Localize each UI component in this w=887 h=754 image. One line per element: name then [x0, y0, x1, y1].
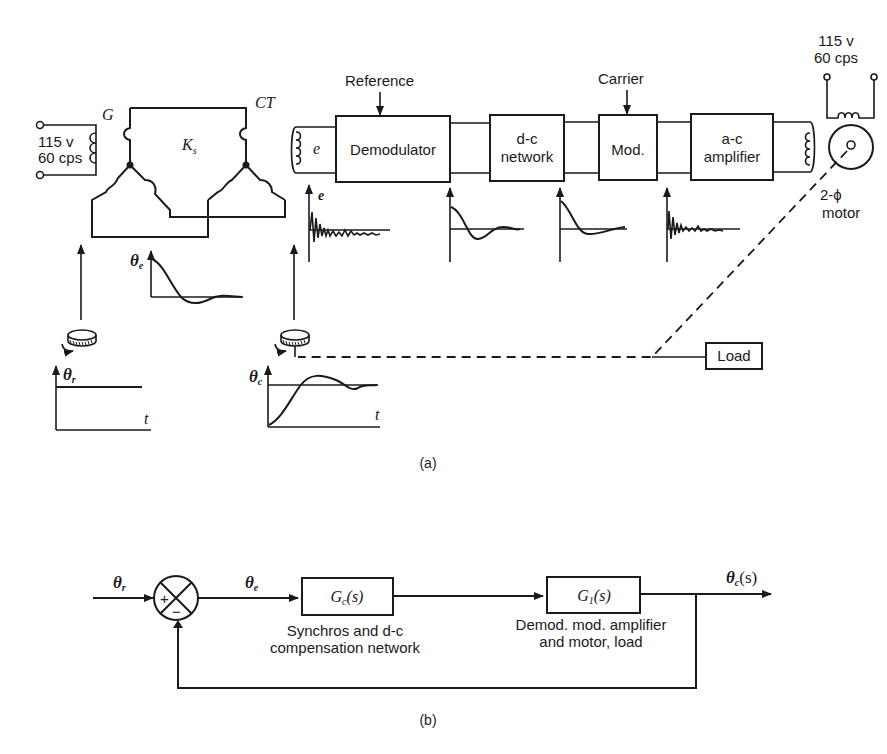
- svg-text:G1(s): G1(s): [577, 587, 610, 606]
- svg-text:compensation network: compensation network: [270, 639, 421, 656]
- input-knob[interactable]: [62, 245, 96, 351]
- block-g1-description: Demod. mod. amplifier: [516, 616, 667, 633]
- waveform-e: e: [309, 185, 390, 262]
- minus-sign: −: [172, 603, 181, 620]
- motor-label: motor: [822, 204, 860, 221]
- terminal-icon: [871, 74, 877, 80]
- caption-a: (a): [419, 455, 436, 471]
- caption-b: (b): [419, 712, 436, 728]
- error-ac-waveform: [310, 212, 380, 242]
- carrier-label: Carrier: [598, 70, 644, 87]
- svg-text:amplifier: amplifier: [704, 148, 761, 165]
- block-gc: Gc(s) Synchros and d-c compensation netw…: [270, 578, 421, 656]
- two-phase-motor: 115 v 60 cps 2-ϕ motor: [814, 32, 877, 221]
- servo-system-figure: 115 v 60 cps G Ks CT e Reference: [0, 0, 887, 754]
- reference-label: Reference: [345, 72, 414, 89]
- svg-text:Demodulator: Demodulator: [350, 141, 436, 158]
- theta-r-plot: θr t: [56, 365, 151, 430]
- load-box: Load: [706, 343, 762, 369]
- block-dc-network: d-c network: [490, 115, 564, 181]
- waveform-modulated: [667, 188, 740, 262]
- output-knob: [275, 245, 309, 357]
- left-source-frequency: 60 cps: [38, 149, 82, 166]
- svg-text:t: t: [375, 406, 380, 423]
- waveform-dc-network: [560, 188, 627, 262]
- svg-text:Gc(s): Gc(s): [331, 588, 364, 607]
- error-label: θe: [245, 573, 259, 593]
- figure-a: 115 v 60 cps G Ks CT e Reference: [37, 32, 878, 471]
- theta-c-plot: θc t: [249, 366, 380, 427]
- feedback-arrow-icon: [173, 620, 183, 628]
- left-source-voltage: 115 v: [38, 133, 74, 150]
- svg-text:d-c: d-c: [517, 130, 538, 147]
- theta-e-label: θe: [130, 251, 144, 271]
- svg-text:t: t: [144, 410, 149, 427]
- generator-label: G: [102, 106, 114, 123]
- theta-r-label: θr: [63, 365, 76, 385]
- control-transformer: [208, 162, 285, 238]
- control-transformer-label: CT: [255, 94, 276, 111]
- terminal-icon: [824, 74, 830, 80]
- motor-phase-label: 2-ϕ: [820, 186, 842, 203]
- plus-sign: +: [160, 590, 169, 607]
- gain-label: Ks: [181, 136, 197, 156]
- block-ac-amplifier: a-c amplifier: [691, 114, 773, 180]
- figure-b: θr + − θe Gc(s) Synchros and d-c compens…: [93, 568, 771, 728]
- error-voltage-label: e: [313, 140, 320, 157]
- output-label: θc(s): [726, 568, 757, 588]
- svg-text:a-c: a-c: [722, 130, 743, 147]
- block-demodulator: Demodulator: [336, 116, 450, 182]
- primary-coil-icon: [90, 133, 96, 163]
- theta-c-label: θc: [249, 367, 263, 387]
- svg-text:and motor, load: and motor, load: [539, 633, 642, 650]
- svg-text:network: network: [501, 148, 554, 165]
- generator-winding-left: [92, 165, 208, 237]
- right-source-voltage: 115 v: [818, 32, 854, 49]
- block-g1: G1(s) Demod. mod. amplifier and motor, l…: [516, 577, 667, 650]
- terminal-icon: [37, 172, 44, 179]
- motor-control-winding-icon: [806, 133, 811, 165]
- right-source-frequency: 60 cps: [814, 49, 858, 66]
- waveform-demod: [450, 188, 524, 262]
- svg-text:e: e: [318, 188, 324, 203]
- block-modulator: Mod.: [599, 115, 657, 180]
- svg-text:Mod.: Mod.: [611, 141, 644, 158]
- synchro-generator: [92, 108, 285, 237]
- input-label: θr: [113, 573, 126, 593]
- left-ac-source: 115 v 60 cps: [37, 122, 97, 179]
- motor-reference-winding-icon: [827, 80, 874, 118]
- svg-text:Load: Load: [717, 347, 750, 364]
- terminal-icon: [37, 122, 44, 129]
- ct-rotor-coil-icon: [296, 132, 301, 164]
- theta-e-plot: θe: [130, 251, 243, 303]
- summing-junction: + −: [154, 576, 198, 620]
- block-gc-description: Synchros and d-c: [287, 622, 404, 639]
